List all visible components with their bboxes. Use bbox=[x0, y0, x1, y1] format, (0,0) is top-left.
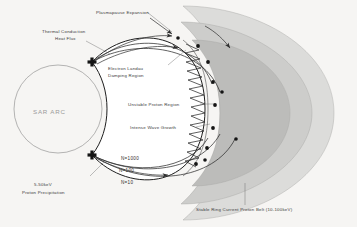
node-point-icon bbox=[206, 60, 210, 64]
label-proton-precip-line2: Proton Precipitation bbox=[22, 190, 65, 195]
label-proton-precip-line1: 5-50keV bbox=[34, 182, 52, 187]
node-point-icon bbox=[211, 80, 215, 84]
label-unstable-proton-region: Unstable Proton Region bbox=[128, 102, 180, 107]
label-thermal-conduction-line1: Thermal Conduction bbox=[42, 29, 86, 34]
node-point-icon bbox=[90, 58, 93, 67]
node-point-icon bbox=[220, 90, 224, 94]
label-intense-wave-growth: Intense Wave Growth bbox=[130, 125, 177, 130]
label-electron-landau-line1: Electron Landau bbox=[108, 66, 144, 71]
diagram-canvas: Plasmapause Expansion Thermal Conduction… bbox=[0, 0, 357, 227]
label-contour-n10: N=10 bbox=[121, 180, 133, 185]
label-stable-ring-current: Stable Ring Current Proton Belt (10-100k… bbox=[196, 207, 293, 212]
node-point-icon bbox=[211, 126, 215, 130]
node-point-icon bbox=[234, 137, 238, 141]
plasmasphere-lobe bbox=[92, 38, 205, 180]
label-thermal-conduction-line2: Heat Flux bbox=[55, 36, 76, 41]
label-contour-n100: N=100 bbox=[119, 168, 134, 173]
label-contour-n1000: N=1000 bbox=[121, 156, 139, 161]
label-electron-landau-line2: Damping Region bbox=[108, 73, 144, 78]
node-point-icon bbox=[205, 146, 209, 150]
node-point-icon bbox=[176, 36, 180, 40]
label-sar-arc: SAR ARC bbox=[33, 108, 66, 115]
node-point-icon bbox=[203, 158, 207, 162]
node-point-icon bbox=[194, 162, 198, 166]
label-plasmapause-expansion: Plasmapause Expansion bbox=[96, 10, 149, 15]
node-point-icon bbox=[213, 103, 217, 107]
node-point-icon bbox=[90, 151, 93, 160]
node-point-icon bbox=[196, 44, 200, 48]
